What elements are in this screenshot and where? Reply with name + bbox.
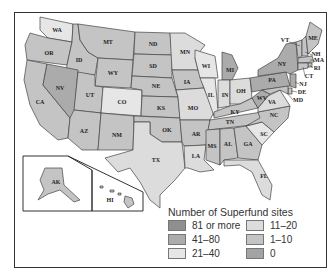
svg-text:OR: OR bbox=[45, 50, 55, 56]
svg-text:CO: CO bbox=[118, 99, 127, 105]
svg-text:NY: NY bbox=[278, 61, 287, 67]
legend-swatch bbox=[168, 234, 186, 245]
svg-text:FL: FL bbox=[260, 173, 268, 179]
svg-text:IA: IA bbox=[184, 79, 191, 85]
state-HI bbox=[100, 186, 134, 208]
svg-text:WA: WA bbox=[52, 27, 62, 33]
state-AK bbox=[38, 168, 80, 202]
legend-swatch bbox=[168, 220, 186, 231]
legend-swatch bbox=[246, 234, 264, 245]
svg-text:CA: CA bbox=[36, 99, 45, 105]
svg-text:AZ: AZ bbox=[80, 128, 88, 134]
legend-item-0: 0 bbox=[246, 248, 324, 259]
legend-swatch bbox=[168, 248, 186, 259]
svg-text:ID: ID bbox=[76, 57, 83, 63]
svg-text:WI: WI bbox=[202, 63, 211, 69]
svg-text:MA: MA bbox=[314, 57, 325, 63]
legend-item-41-80: 41–80 bbox=[168, 234, 246, 245]
svg-text:RI: RI bbox=[314, 65, 321, 71]
state-FL bbox=[224, 160, 272, 200]
svg-text:MO: MO bbox=[188, 105, 199, 111]
svg-text:TX: TX bbox=[152, 157, 161, 163]
svg-text:CT: CT bbox=[305, 73, 313, 79]
svg-text:MT: MT bbox=[103, 39, 113, 45]
svg-text:NJ: NJ bbox=[299, 81, 306, 87]
svg-text:NV: NV bbox=[56, 85, 65, 91]
svg-text:SC: SC bbox=[260, 131, 268, 137]
svg-text:ND: ND bbox=[149, 41, 158, 47]
svg-text:HI: HI bbox=[106, 197, 114, 203]
svg-text:NE: NE bbox=[152, 83, 160, 89]
svg-text:PA: PA bbox=[268, 77, 276, 83]
legend-title: Number of Superfund sites bbox=[168, 206, 328, 218]
legend-swatch bbox=[246, 248, 264, 259]
legend-item-81-plus: 81 or more bbox=[168, 220, 246, 231]
state-NJ bbox=[290, 74, 296, 88]
svg-text:NC: NC bbox=[270, 112, 279, 118]
state-CT bbox=[298, 63, 308, 70]
legend-item-1-10: 1–10 bbox=[246, 234, 324, 245]
svg-text:MI: MI bbox=[226, 67, 235, 73]
state-NY bbox=[258, 42, 298, 76]
svg-text:GA: GA bbox=[244, 141, 254, 147]
legend: Number of Superfund sites 81 or more 11–… bbox=[168, 206, 328, 259]
svg-text:OK: OK bbox=[162, 127, 172, 133]
svg-text:IN: IN bbox=[222, 92, 229, 98]
svg-text:ME: ME bbox=[308, 35, 318, 41]
svg-text:LA: LA bbox=[192, 153, 201, 159]
svg-text:OH: OH bbox=[236, 88, 246, 94]
svg-text:VT: VT bbox=[281, 37, 289, 43]
svg-text:DE: DE bbox=[298, 89, 306, 95]
legend-item-21-40: 21–40 bbox=[168, 248, 246, 259]
svg-text:KS: KS bbox=[157, 105, 166, 111]
svg-text:WV: WV bbox=[257, 95, 268, 101]
svg-text:AL: AL bbox=[224, 141, 232, 147]
svg-text:AK: AK bbox=[52, 179, 61, 185]
svg-text:TN: TN bbox=[226, 119, 235, 125]
svg-text:SD: SD bbox=[149, 63, 157, 69]
svg-text:UT: UT bbox=[86, 92, 94, 98]
svg-text:MS: MS bbox=[208, 143, 218, 149]
svg-text:AR: AR bbox=[192, 131, 201, 137]
svg-text:MD: MD bbox=[293, 97, 304, 103]
legend-item-11-20: 11–20 bbox=[246, 220, 324, 231]
svg-text:KY: KY bbox=[231, 109, 241, 115]
state-MI bbox=[222, 52, 238, 80]
svg-text:WY: WY bbox=[108, 70, 119, 76]
svg-text:IL: IL bbox=[208, 92, 214, 98]
svg-text:NM: NM bbox=[112, 132, 122, 138]
svg-text:VA: VA bbox=[268, 99, 277, 105]
svg-text:MN: MN bbox=[180, 49, 191, 55]
legend-swatch bbox=[246, 220, 264, 231]
